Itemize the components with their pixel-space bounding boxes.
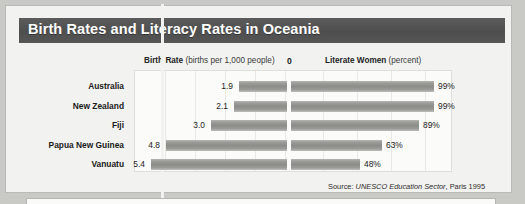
column-headers: Birth Rate (births per 1,000 people) 0 L… (6, 56, 525, 70)
chart-figure: Birth Rates and Literacy Rates in Oceani… (0, 0, 525, 204)
birth-rate-bar (239, 81, 287, 92)
literate-women-header: Literate Women (percent) (325, 56, 421, 65)
birth-rate-value: 4.8 (122, 140, 160, 151)
row-label-papua-new-guinea: Papua New Guinea (6, 140, 124, 151)
literate-women-value: 99% (438, 101, 455, 112)
bar-rows: Australia1.999%New Zealand2.199%Fiji3.08… (6, 70, 525, 172)
birth-rate-bar (211, 120, 287, 131)
source-prefix: Source: (328, 182, 353, 191)
birth-rate-value: 3.0 (167, 120, 205, 131)
literate-women-header-unit: (percent) (389, 56, 422, 65)
birth-rate-bar (151, 159, 287, 170)
birth-rate-value: 5.4 (107, 159, 145, 170)
literate-women-value: 89% (423, 120, 440, 131)
birth-rate-bar (234, 101, 287, 112)
literate-women-bar (291, 120, 419, 131)
literate-women-value: 63% (386, 140, 403, 151)
literate-women-value: 99% (438, 81, 455, 92)
literate-women-bar (291, 101, 434, 112)
axis-zero-label: 0 (287, 56, 292, 66)
birth-rate-value: 2.1 (190, 101, 228, 112)
title-banner: Birth Rates and Literacy Rates in Oceani… (19, 18, 505, 43)
table-row: Papua New Guinea4.863% (6, 140, 525, 151)
literate-women-value: 48% (364, 159, 381, 170)
birth-rate-bar (166, 140, 287, 151)
figure-card: Birth Rates and Literacy Rates in Oceani… (6, 6, 511, 192)
page-title: Birth Rates and Literacy Rates in Oceani… (28, 21, 320, 37)
birth-rate-value: 1.9 (195, 81, 233, 92)
source-title: UNESCO Education Sector (356, 182, 446, 191)
source-note: Source: UNESCO Education Sector, Paris 1… (328, 182, 485, 191)
source-suffix: , Paris 1995 (446, 182, 485, 191)
literate-women-bar (291, 140, 382, 151)
row-label-australia: Australia (6, 81, 124, 92)
row-label-fiji: Fiji (6, 120, 124, 131)
table-row: Vanuatu5.448% (6, 159, 525, 170)
table-row: Fiji3.089% (6, 120, 525, 131)
literate-women-bar (291, 81, 434, 92)
table-row: New Zealand2.199% (6, 101, 525, 112)
literate-women-header-label: Literate Women (325, 56, 386, 65)
row-label-new-zealand: New Zealand (6, 101, 124, 112)
birth-rate-header-unit: (births per 1,000 people) (185, 56, 274, 65)
page-bottom-edge (26, 198, 496, 204)
literate-women-bar (291, 159, 360, 170)
table-row: Australia1.999% (6, 81, 525, 92)
